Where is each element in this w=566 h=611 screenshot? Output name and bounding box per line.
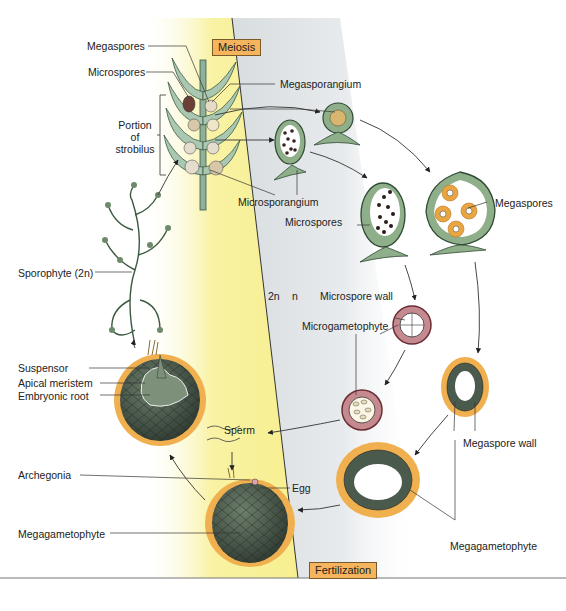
- label-egg: Egg: [292, 482, 311, 494]
- label-suspensor: Suspensor: [18, 362, 68, 374]
- label-apical-meristem: Apical meristem: [18, 377, 93, 389]
- megaspore-wall-illustration: [441, 357, 489, 417]
- meiosis-box: Meiosis: [212, 39, 261, 56]
- label-megagametophyte-left: Megagametophyte: [18, 528, 105, 540]
- label-microsporangium: Microsporangium: [238, 196, 319, 208]
- megagametophyte-right-illustration: [336, 442, 420, 518]
- label-megagametophyte-right: Megagametophyte: [450, 540, 537, 552]
- label-microspores-top: Microspores: [88, 66, 145, 78]
- diagram-canvas: [0, 0, 566, 611]
- label-megaspore-wall: Megaspore wall: [463, 437, 537, 449]
- fertilization-box: Fertilization: [309, 562, 377, 579]
- label-microspores-right: Microspores: [285, 216, 342, 228]
- label-microspore-wall: Microspore wall: [320, 290, 393, 302]
- label-sperm: Sperm: [224, 424, 255, 436]
- microgametophyte-illustration: [342, 390, 382, 430]
- label-megasporangium: Megasporangium: [280, 78, 361, 90]
- label-microgametophyte: Microgametophyte: [302, 320, 388, 332]
- label-embryonic-root: Embryonic root: [18, 390, 89, 402]
- label-megaspores-top: Megaspores: [87, 40, 145, 52]
- label-megaspores-right: Megaspores: [495, 197, 553, 209]
- megaspore-sporangium-large: [426, 172, 495, 255]
- label-portion-of-strobilus: Portion of strobilus: [115, 119, 155, 155]
- life-cycle-diagram: Meiosis Fertilization 2n n Megaspores Mi…: [0, 0, 566, 611]
- ploidy-haploid-label: n: [292, 290, 298, 302]
- microspore-wall-illustration: [393, 306, 431, 344]
- label-archegonia: Archegonia: [18, 469, 71, 481]
- label-sporophyte: Sporophyte (2n): [18, 267, 93, 279]
- ploidy-diploid-label: 2n: [268, 290, 280, 302]
